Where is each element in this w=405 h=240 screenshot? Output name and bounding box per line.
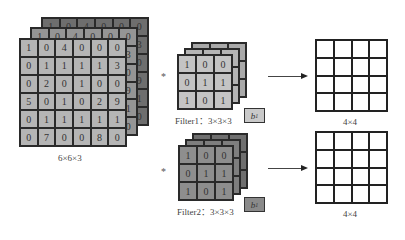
output-cell <box>352 150 370 168</box>
input-cell: 0 <box>38 39 56 57</box>
input-cell: 0 <box>108 39 126 57</box>
input-cell: 0 <box>73 93 91 111</box>
output-cell <box>316 132 334 150</box>
output-cell <box>369 58 387 76</box>
input-layer-front: 1 0 4 0 0 0 0 1 1 1 1 3 0 2 0 1 0 0 5 0 … <box>19 38 127 147</box>
output-cell <box>334 185 352 203</box>
input-cell: 1 <box>38 110 56 128</box>
input-cell: 1 <box>55 57 73 75</box>
input-cell: 9 <box>108 93 126 111</box>
input-cell: 8 <box>91 128 109 146</box>
output-cell <box>316 40 334 58</box>
output-cell <box>334 58 352 76</box>
output-cell <box>369 150 387 168</box>
filter-cell: 1 <box>179 182 197 200</box>
arrow-2 <box>268 168 303 169</box>
output-cell <box>334 76 352 94</box>
output-cell <box>334 168 352 186</box>
output-cell <box>352 132 370 150</box>
filter-cell: 1 <box>215 182 233 200</box>
filter-cell: 0 <box>179 164 197 182</box>
input-cell: 0 <box>91 39 109 57</box>
filter-cell: 0 <box>215 146 233 164</box>
output-cell <box>316 150 334 168</box>
filter-cell: 1 <box>178 55 196 73</box>
input-cell: 0 <box>55 75 73 93</box>
input-cell: 5 <box>20 93 38 111</box>
input-cell: 1 <box>91 110 109 128</box>
input-cell: 0 <box>55 128 73 146</box>
input-cell: 1 <box>91 57 109 75</box>
filter-cell: 0 <box>196 91 214 109</box>
output-cell <box>369 93 387 111</box>
output-cell <box>334 93 352 111</box>
output-cell <box>369 40 387 58</box>
input-cell: 7 <box>38 128 56 146</box>
bias-subscript: 1 <box>255 202 258 208</box>
input-cell: 0 <box>108 128 126 146</box>
output-cell <box>369 76 387 94</box>
input-cell: 1 <box>55 93 73 111</box>
output-cell <box>369 185 387 203</box>
input-cell: 0 <box>20 75 38 93</box>
input-size-label: 6×6×3 <box>58 153 82 163</box>
output-cell <box>316 168 334 186</box>
filter-2-label: Filter2：3×3×3 <box>177 205 234 218</box>
output-cell <box>352 185 370 203</box>
input-cell: 1 <box>73 75 91 93</box>
filter-1-layer-front: 1 0 0 0 1 1 1 0 1 <box>177 54 233 110</box>
output-cell <box>352 93 370 111</box>
filter-cell: 0 <box>196 55 214 73</box>
arrow-2-head-icon <box>301 165 308 171</box>
filter-cell: 1 <box>196 73 214 91</box>
output-cell <box>369 168 387 186</box>
arrow-1-head-icon <box>301 73 308 79</box>
output-cell <box>334 40 352 58</box>
input-cell: 2 <box>91 93 109 111</box>
output-2-grid <box>315 131 388 204</box>
output-1-label: 4×4 <box>343 117 357 127</box>
output-cell <box>334 150 352 168</box>
filter-cell: 1 <box>214 91 232 109</box>
filter-cell: 0 <box>178 73 196 91</box>
output-cell <box>352 76 370 94</box>
arrow-1 <box>268 76 303 77</box>
input-cell: 4 <box>55 39 73 57</box>
filter-1-bias: b1 <box>244 108 265 123</box>
filter-cell: 0 <box>197 182 215 200</box>
output-cell <box>352 168 370 186</box>
convolution-operator-2: * <box>161 166 166 177</box>
filter-cell: 1 <box>214 73 232 91</box>
input-cell: 0 <box>38 93 56 111</box>
filter-cell: 0 <box>197 146 215 164</box>
input-cell: 1 <box>108 110 126 128</box>
output-cell <box>352 58 370 76</box>
output-cell <box>316 93 334 111</box>
bias-subscript: 1 <box>255 113 258 119</box>
input-cell: 1 <box>38 57 56 75</box>
input-cell: 3 <box>108 57 126 75</box>
output-cell <box>316 185 334 203</box>
output-cell <box>316 76 334 94</box>
input-cell: 0 <box>20 128 38 146</box>
input-cell: 0 <box>20 57 38 75</box>
output-cell <box>316 58 334 76</box>
output-cell <box>352 40 370 58</box>
filter-2-layer-front: 1 0 0 0 1 1 1 0 1 <box>178 145 234 201</box>
filter-cell: 1 <box>215 164 233 182</box>
output-1-grid <box>315 39 388 112</box>
output-2-label: 4×4 <box>343 209 357 219</box>
input-cell: 0 <box>91 75 109 93</box>
output-cell <box>334 132 352 150</box>
filter-cell: 1 <box>178 91 196 109</box>
input-cell: 0 <box>73 39 91 57</box>
filter-cell: 0 <box>214 55 232 73</box>
input-cell: 0 <box>108 75 126 93</box>
input-cell: 1 <box>73 57 91 75</box>
input-cell: 1 <box>55 110 73 128</box>
filter-cell: 1 <box>179 146 197 164</box>
input-cell: 2 <box>38 75 56 93</box>
output-cell <box>369 132 387 150</box>
convolution-operator-1: * <box>161 71 166 82</box>
input-cell: 0 <box>20 110 38 128</box>
